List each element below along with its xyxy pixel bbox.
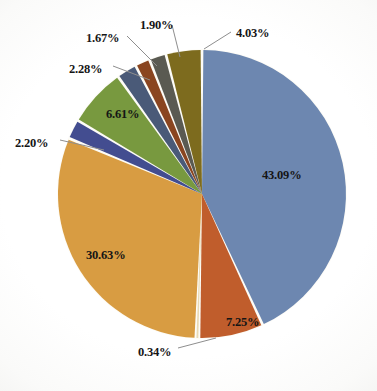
label-leader-line — [127, 36, 157, 66]
slice-label-220: 2.20% — [15, 137, 48, 150]
slice-label-034: 0.34% — [138, 346, 171, 359]
pie-chart-svg — [0, 0, 377, 391]
slice-label-661: 6.61% — [106, 108, 139, 121]
slice-label-3063: 30.63% — [86, 249, 125, 262]
pie-slices — [57, 49, 347, 339]
slice-label-725: 7.25% — [226, 316, 259, 329]
slice-label-167: 1.67% — [86, 32, 119, 45]
label-leader-line — [178, 338, 216, 348]
pie-chart-figure: 43.09% 7.25% 0.34% 30.63% 2.20% 6.61% 2.… — [0, 0, 377, 391]
slice-label-403: 4.03% — [236, 27, 269, 40]
slice-label-43: 43.09% — [262, 169, 301, 182]
slice-label-228: 2.28% — [69, 63, 102, 76]
label-leader-line — [204, 32, 231, 49]
slice-label-190: 1.90% — [140, 19, 173, 32]
